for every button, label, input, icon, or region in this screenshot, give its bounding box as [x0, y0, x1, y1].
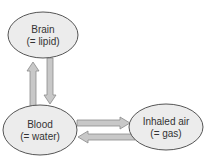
- brain-name: Brain: [8, 24, 78, 36]
- arrow-blood-to-brain: [27, 62, 39, 109]
- brain-node-label: Brain (= lipid): [8, 24, 78, 48]
- arrow-brain-to-blood: [44, 58, 56, 104]
- blood-node-label: Blood (= water): [4, 119, 76, 143]
- blood-phase: (= water): [4, 131, 76, 143]
- brain-phase: (= lipid): [8, 36, 78, 48]
- air-name: Inhaled air: [130, 116, 202, 128]
- arrow-air-to-blood: [78, 131, 135, 143]
- air-node-label: Inhaled air (= gas): [130, 116, 202, 140]
- arrow-blood-to-air: [77, 117, 130, 129]
- blood-name: Blood: [4, 119, 76, 131]
- air-phase: (= gas): [130, 128, 202, 140]
